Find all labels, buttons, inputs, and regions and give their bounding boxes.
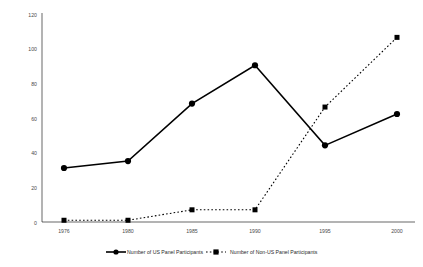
x-tick-label-1990: 1990	[249, 228, 261, 234]
data-point-non-us	[323, 105, 328, 110]
data-point-us	[252, 62, 258, 68]
data-point-non-us	[395, 35, 400, 40]
y-tick-label-120: 120	[28, 12, 37, 18]
legend-marker-circle-icon	[113, 249, 118, 254]
data-point-non-us	[126, 218, 131, 223]
data-point-non-us	[253, 207, 258, 212]
x-tick-label-1995: 1995	[319, 228, 331, 234]
data-point-us	[394, 111, 400, 117]
x-tick-label-1980: 1980	[122, 228, 134, 234]
x-tick-label-1985: 1985	[186, 228, 198, 234]
chart-svg: 0 20 40 60 80 100 120 1976 1980 1985 199…	[0, 0, 423, 267]
legend-label-us: Number of US Panel Participants	[127, 249, 204, 255]
y-tick-label-0: 0	[34, 220, 37, 226]
x-tick-label-2000: 2000	[391, 228, 403, 234]
legend-label-non-us: Number of Non-US Panel Participants	[230, 249, 318, 255]
x-tick-label-1976: 1976	[58, 228, 70, 234]
chart-background	[0, 0, 423, 267]
data-point-us	[125, 158, 131, 164]
line-chart: 0 20 40 60 80 100 120 1976 1980 1985 199…	[0, 0, 423, 267]
data-point-non-us	[190, 207, 195, 212]
data-point-us	[322, 142, 328, 148]
legend-marker-square-icon	[213, 249, 218, 254]
data-point-us	[61, 165, 67, 171]
y-tick-label-80: 80	[31, 81, 37, 87]
y-tick-label-40: 40	[31, 150, 37, 156]
y-tick-label-100: 100	[28, 46, 37, 52]
y-tick-label-20: 20	[31, 185, 37, 191]
y-tick-label-60: 60	[31, 116, 37, 122]
data-point-us	[189, 100, 195, 106]
data-point-non-us	[62, 218, 67, 223]
